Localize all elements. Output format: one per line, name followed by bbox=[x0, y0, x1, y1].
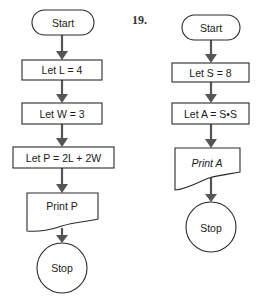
output-print-p-label: Print P bbox=[46, 200, 78, 212]
arrow-start-to-let-l bbox=[56, 35, 68, 60]
arrow-let-w-to-let-p bbox=[56, 124, 68, 147]
output-print-a-label: Print A bbox=[191, 157, 222, 169]
exercise-number: 19. bbox=[132, 13, 147, 27]
process-let-s-label: Let S = 8 bbox=[189, 67, 231, 79]
arrow-let-s-to-let-a bbox=[205, 82, 217, 103]
process-let-w-label: Let W = 3 bbox=[39, 108, 84, 120]
process-let-p: Let P = 2L + 2W bbox=[13, 147, 114, 168]
stop-connector: Stop bbox=[37, 243, 87, 293]
process-let-a-label: Let A = S•S bbox=[184, 108, 237, 120]
start-terminal: Start bbox=[32, 10, 94, 35]
start-label: Start bbox=[52, 17, 74, 29]
flowchart-diagrams: Start Let L = 4 Let W = 3 Let P = 2L + 2… bbox=[0, 0, 259, 297]
arrow-print-a-to-stop bbox=[205, 178, 217, 202]
flowchart-right: 19. Start Let S = 8 bbox=[132, 13, 249, 252]
start-terminal-2: Start bbox=[182, 15, 240, 40]
process-let-w: Let W = 3 bbox=[22, 103, 102, 124]
stop-label: Stop bbox=[51, 262, 73, 274]
output-print-a: Print A bbox=[175, 148, 240, 190]
arrow-print-p-to-stop bbox=[56, 228, 68, 243]
start-label-2: Start bbox=[200, 22, 222, 34]
process-let-l-label: Let L = 4 bbox=[42, 64, 83, 76]
process-let-l: Let L = 4 bbox=[22, 60, 102, 80]
stop-connector-2: Stop bbox=[186, 202, 236, 252]
arrow-start-to-let-s bbox=[205, 40, 217, 63]
arrow-let-l-to-let-w bbox=[56, 80, 68, 103]
process-let-s: Let S = 8 bbox=[172, 63, 249, 82]
output-print-p: Print P bbox=[27, 193, 98, 231]
arrow-let-p-to-print-p bbox=[56, 168, 68, 193]
process-let-p-label: Let P = 2L + 2W bbox=[26, 152, 101, 164]
process-let-a: Let A = S•S bbox=[172, 103, 249, 124]
flowchart-left: Start Let L = 4 Let W = 3 Let P = 2L + 2… bbox=[13, 10, 114, 293]
stop-label-2: Stop bbox=[200, 222, 222, 234]
arrow-let-a-to-print-a bbox=[205, 124, 217, 148]
